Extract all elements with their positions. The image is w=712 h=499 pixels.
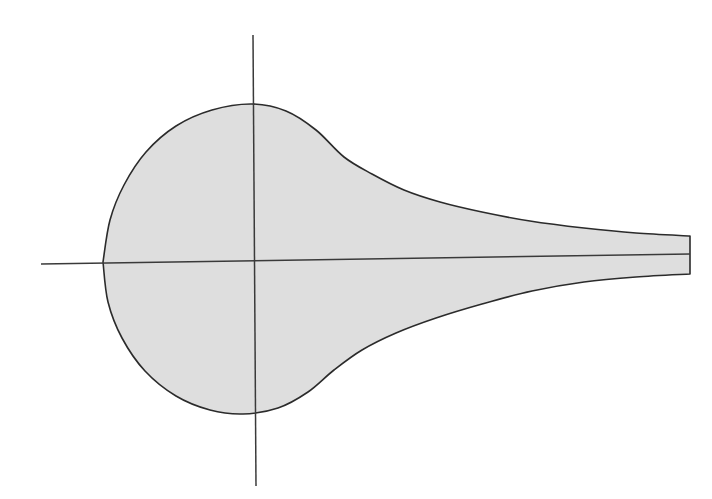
math-diagram-svg <box>0 0 712 499</box>
figure-canvas <box>0 0 712 499</box>
